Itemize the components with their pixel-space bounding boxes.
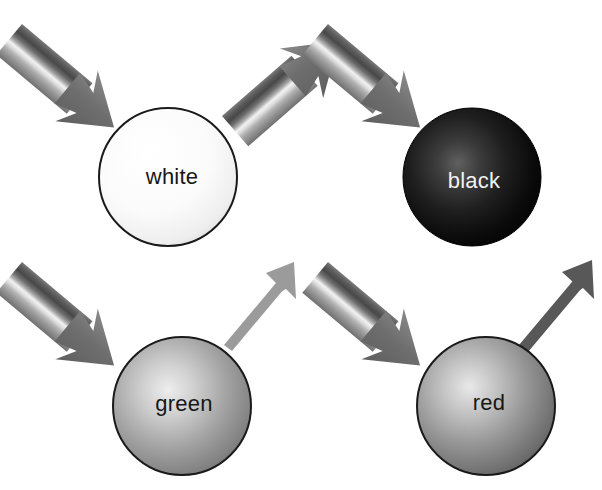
outgoing-beam-green: [224, 262, 296, 351]
diagram-canvas: [0, 0, 602, 490]
outgoing-beam-white: [213, 16, 360, 156]
incoming-beam-green: [0, 252, 135, 391]
panel-white-arrows: [0, 14, 360, 156]
incoming-beam-white: [0, 14, 135, 153]
incoming-beam-black: [294, 14, 441, 153]
panel-black-arrows: [294, 14, 441, 153]
reflectance-diagram: white black green red: [0, 0, 602, 490]
panel-red-arrows: [294, 252, 594, 391]
panel-green-arrows: [0, 252, 296, 391]
incoming-beam-red: [294, 252, 441, 391]
sphere-label-red: red: [473, 392, 505, 414]
sphere-label-white: white: [146, 166, 198, 188]
sphere-label-black: black: [448, 170, 500, 192]
outgoing-beam-red: [519, 260, 594, 352]
sphere-label-green: green: [155, 393, 212, 415]
